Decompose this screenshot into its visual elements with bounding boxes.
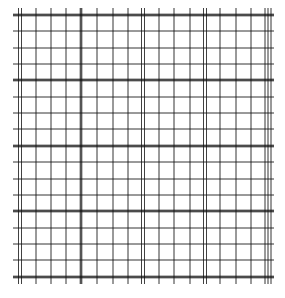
grid-pattern bbox=[0, 0, 285, 298]
